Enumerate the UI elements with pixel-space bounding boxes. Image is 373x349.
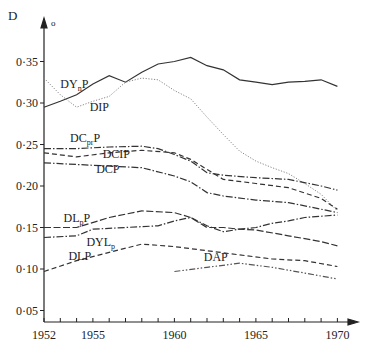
x-tick-label: 1952: [32, 328, 56, 342]
y-tick-label: 0·30: [16, 96, 38, 110]
series-label-dap: DAP: [204, 250, 228, 264]
tick-labels: 195219551960196519700·350·300·250·200·15…: [16, 55, 349, 343]
series-label-dcip: DCIP: [103, 147, 131, 161]
line-chart: 195219551960196519700·350·300·250·200·15…: [0, 0, 373, 349]
y-tick-label: 0·25: [16, 138, 38, 152]
series-line-dcp: [44, 163, 337, 213]
series-line-dcip: [44, 150, 337, 209]
series-line-dap: [174, 263, 337, 279]
x-tick-label: 1955: [81, 328, 105, 342]
y-tick-label: 0·20: [16, 179, 38, 193]
y-tick-label: 0·10: [16, 262, 38, 276]
series-label-dcprp: DCprP: [70, 131, 100, 147]
tick-marks: [40, 62, 337, 323]
y-axis-label-subscript: o: [51, 18, 56, 28]
y-tick-label: 0·35: [16, 55, 38, 69]
series-label-dcp: DCP: [96, 162, 120, 176]
y-tick-label: 0·15: [16, 221, 38, 235]
x-tick-label: 1960: [162, 328, 186, 342]
y-tick-label: 0·05: [16, 304, 38, 318]
series-label-dlp: DLP: [68, 249, 91, 263]
x-axis-arrow-icon: [348, 319, 358, 325]
axes: [41, 18, 358, 325]
y-axis-arrow-icon: [41, 18, 47, 28]
series-label-dlpp: DLpP: [64, 211, 91, 227]
series-label-dynp: DYnP: [60, 77, 88, 93]
series-line-dcprp: [44, 146, 337, 190]
x-tick-label: 1970: [325, 328, 349, 342]
y-axis-label: D: [8, 8, 17, 23]
x-tick-label: 1965: [244, 328, 268, 342]
series-label-dip: DIP: [90, 100, 110, 114]
